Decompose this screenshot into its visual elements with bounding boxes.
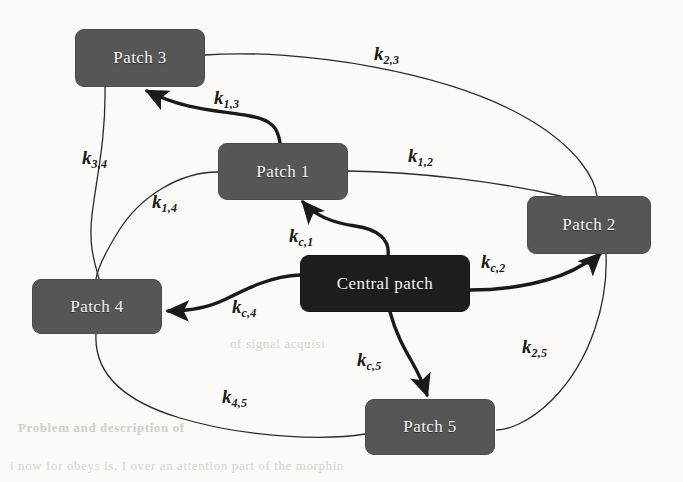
- edge-label-k23: k2,3: [374, 44, 399, 66]
- edge-label-k34-base: k: [82, 147, 92, 168]
- node-central-patch[interactable]: Central patch: [300, 255, 470, 312]
- edge-label-k13-base: k: [214, 87, 224, 108]
- node-patch1[interactable]: Patch 1: [218, 143, 348, 200]
- edge-label-k14: k1,4: [152, 192, 177, 214]
- node-patch5-label: Patch 5: [403, 417, 456, 437]
- node-patch4[interactable]: Patch 4: [32, 279, 162, 334]
- edge-label-k34: k3,4: [82, 148, 107, 170]
- diagram-canvas: of signal acquisi Problem and descriptio…: [0, 0, 683, 482]
- edge-label-k14-base: k: [152, 191, 162, 212]
- edge-label-kc5-base: k: [357, 349, 367, 370]
- edge-label-k14-sub: 1,4: [162, 201, 178, 215]
- edge-k34: [91, 87, 105, 279]
- node-patch2-label: Patch 2: [562, 215, 615, 235]
- edge-label-k12: k1,2: [408, 146, 433, 168]
- edge-label-k12-base: k: [408, 145, 418, 166]
- edge-label-k23-base: k: [374, 43, 384, 64]
- edge-label-k25: k2,5: [522, 337, 547, 359]
- edge-label-k25-sub: 2,5: [532, 346, 548, 360]
- edge-label-kc5-sub: c,5: [367, 359, 382, 373]
- node-patch1-label: Patch 1: [256, 162, 309, 182]
- edge-label-k13: k1,3: [214, 88, 239, 110]
- edge-label-k25-base: k: [522, 336, 532, 357]
- edge-label-k45: k4,5: [222, 387, 247, 409]
- edge-label-k12-sub: 1,2: [418, 155, 434, 169]
- edge-label-kc1-base: k: [289, 225, 299, 246]
- edge-label-kc5: kc,5: [357, 350, 381, 372]
- node-patch3-label: Patch 3: [113, 48, 166, 68]
- edge-label-kc4-base: k: [232, 296, 242, 317]
- node-central-patch-label: Central patch: [337, 274, 433, 294]
- edge-kc5: [390, 312, 427, 395]
- edge-label-kc2-sub: c,2: [491, 261, 506, 275]
- edge-label-k34-sub: 3,4: [92, 157, 108, 171]
- edge-label-kc2-base: k: [481, 251, 491, 272]
- edge-k14: [96, 172, 218, 279]
- edge-kc1: [303, 202, 388, 255]
- edge-label-k45-sub: 4,5: [232, 396, 248, 410]
- edge-label-kc2: kc,2: [481, 252, 505, 274]
- node-patch5[interactable]: Patch 5: [365, 399, 495, 455]
- edge-label-kc4-sub: c,4: [242, 306, 257, 320]
- node-patch2[interactable]: Patch 2: [527, 196, 651, 254]
- edge-label-k45-base: k: [222, 386, 232, 407]
- edge-label-k13-sub: 1,3: [224, 97, 240, 111]
- edge-label-kc1-sub: c,1: [299, 235, 314, 249]
- node-patch4-label: Patch 4: [70, 297, 123, 317]
- edge-label-k23-sub: 2,3: [384, 53, 400, 67]
- node-patch3[interactable]: Patch 3: [75, 29, 205, 87]
- edge-label-kc1: kc,1: [289, 226, 313, 248]
- edge-label-kc4: kc,4: [232, 297, 256, 319]
